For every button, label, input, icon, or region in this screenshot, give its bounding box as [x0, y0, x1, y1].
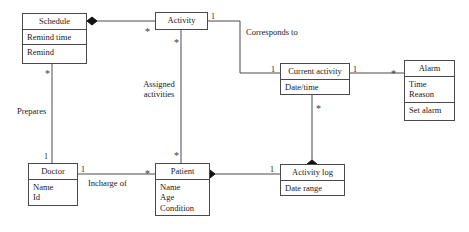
uml-diagram-canvas: Schedule Remind time Remind Activity Cur…: [0, 0, 469, 232]
class-box-schedule[interactable]: Schedule Remind time Remind: [22, 13, 87, 64]
class-operation-alarm-set-alarm: Set alarm: [405, 102, 454, 118]
relationship-label-prepares: Prepares: [17, 106, 46, 116]
multiplicity-schedule-bottom-star: *: [45, 70, 50, 78]
relationship-label-corresponds-to: Corresponds to: [246, 27, 298, 37]
class-attribute-doctor-id: Id: [33, 192, 73, 203]
multiplicity-activity-left-star: *: [145, 28, 150, 36]
class-attribute-schedule-remind: Remind: [23, 44, 86, 60]
class-attribute-alarm-time: Time: [409, 79, 450, 90]
class-attributes-patient: Name Age Condition: [156, 179, 209, 216]
class-box-activity-log[interactable]: Activity log Date range: [280, 164, 345, 196]
relationship-label-incharge-of: Incharge of: [88, 178, 127, 188]
class-title-schedule: Schedule: [23, 14, 86, 29]
class-attribute-activity-log-date-range: Date range: [281, 180, 344, 196]
class-attribute-current-activity-datetime: Date/time: [281, 79, 349, 95]
multiplicity-activity-log-left: 1: [270, 166, 274, 174]
relationship-label-assigned-activities: Assigned activities: [139, 79, 179, 99]
class-box-activity[interactable]: Activity: [155, 12, 208, 30]
class-attribute-doctor-name: Name: [33, 182, 73, 193]
relationship-label-assigned-activities-line2: activities: [144, 89, 175, 99]
multiplicity-patient-top-star: *: [174, 152, 179, 160]
composition-diamond-schedule: [87, 17, 97, 25]
class-attribute-alarm-reason: Reason: [409, 89, 450, 100]
class-attribute-patient-condition: Condition: [160, 203, 205, 214]
class-attribute-patient-age: Age: [160, 192, 205, 203]
class-title-activity: Activity: [156, 13, 207, 28]
class-box-current-activity[interactable]: Current activity Date/time: [280, 63, 350, 95]
multiplicity-patient-left-star: *: [145, 170, 150, 178]
class-title-activity-log: Activity log: [281, 165, 344, 180]
class-title-doctor: Doctor: [29, 164, 77, 179]
multiplicity-activity-bottom-star: *: [174, 39, 179, 47]
class-attribute-schedule-remind-time: Remind time: [23, 29, 86, 45]
relationship-label-assigned-activities-line1: Assigned: [143, 79, 175, 89]
multiplicity-current-activity-left: 1: [271, 66, 275, 74]
class-title-current-activity: Current activity: [281, 64, 349, 79]
multiplicity-doctor-top: 1: [44, 153, 48, 161]
class-attributes-alarm: Time Reason: [405, 76, 454, 102]
class-attributes-doctor: Name Id: [29, 179, 77, 205]
class-box-alarm[interactable]: Alarm Time Reason Set alarm: [404, 60, 455, 121]
multiplicity-activity-right: 1: [211, 13, 215, 21]
class-attribute-patient-name: Name: [160, 182, 205, 193]
multiplicity-current-activity-bottom-star: *: [316, 105, 321, 113]
multiplicity-alarm-left-star: *: [391, 70, 396, 78]
multiplicity-current-activity-right: 1: [353, 66, 357, 74]
class-title-alarm: Alarm: [405, 61, 454, 76]
multiplicity-doctor-right: 1: [81, 166, 85, 174]
class-box-doctor[interactable]: Doctor Name Id: [28, 163, 78, 206]
class-box-patient[interactable]: Patient Name Age Condition: [155, 163, 210, 216]
class-title-patient: Patient: [156, 164, 209, 179]
